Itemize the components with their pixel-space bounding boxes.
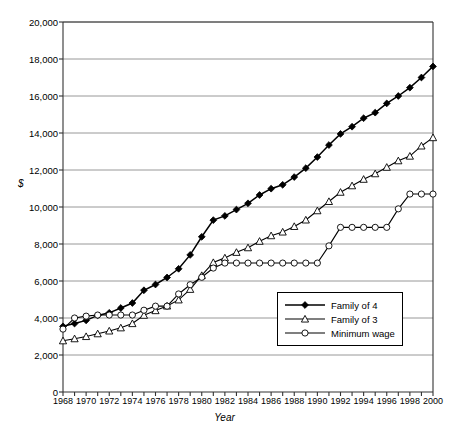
data-point (199, 274, 205, 280)
legend-key-icon (283, 326, 327, 340)
x-axis-tick-label: 1984 (238, 396, 258, 406)
data-point (221, 212, 228, 219)
data-point (245, 260, 251, 266)
x-axis-tick-label: 2000 (423, 396, 443, 406)
data-point (268, 260, 274, 266)
data-point (152, 281, 159, 288)
chart-legend: Family of 4Family of 3Minimum wage (277, 292, 403, 346)
x-axis-tick-label: 1988 (284, 396, 304, 406)
data-point (95, 312, 101, 318)
series-line (63, 66, 433, 326)
data-point (337, 224, 343, 230)
x-axis-tick-label: 1974 (122, 396, 142, 406)
plot-area (0, 0, 449, 435)
data-point (117, 324, 124, 331)
data-point (303, 260, 309, 266)
chart-container: $ 02,0004,0006,0008,00010,00012,00014,00… (0, 0, 449, 435)
legend-label: Family of 4 (327, 300, 377, 311)
x-axis-tick-label: 1968 (53, 396, 73, 406)
data-point (360, 176, 367, 183)
data-point (176, 291, 182, 297)
data-point (302, 302, 309, 309)
data-point (141, 307, 147, 313)
data-point (256, 260, 262, 266)
data-point (233, 260, 239, 266)
legend-item-family-of-4: Family of 4 (283, 298, 398, 312)
data-point (291, 223, 298, 230)
data-point (326, 243, 332, 249)
data-point (268, 185, 275, 192)
x-axis-tick-label: 1972 (99, 396, 119, 406)
data-point (279, 228, 286, 235)
data-point (233, 249, 240, 256)
data-point (280, 260, 286, 266)
data-point (384, 224, 390, 230)
data-point (314, 260, 320, 266)
data-point (349, 224, 355, 230)
x-axis-tick-label: 1976 (145, 396, 165, 406)
data-point (129, 320, 136, 327)
legend-item-minimum-wage: Minimum wage (283, 326, 398, 340)
data-point (60, 326, 66, 332)
data-point (407, 191, 413, 197)
x-axis-tick-label: 1978 (169, 396, 189, 406)
data-point (337, 189, 344, 196)
series-family-of-4 (60, 63, 437, 330)
data-point (210, 265, 216, 271)
x-axis-tick-label: 1992 (330, 396, 350, 406)
data-point (291, 260, 297, 266)
data-point (430, 191, 436, 197)
data-point (244, 244, 251, 251)
data-point (187, 282, 193, 288)
data-point (395, 157, 402, 164)
data-point (222, 260, 228, 266)
data-point (106, 312, 112, 318)
legend-key-icon (283, 312, 327, 326)
data-point (302, 330, 308, 336)
x-axis-tick-label: 1982 (215, 396, 235, 406)
data-point (164, 303, 170, 309)
data-point (372, 170, 379, 177)
data-point (418, 191, 424, 197)
x-axis-tick-label: 1994 (354, 396, 374, 406)
data-point (418, 142, 425, 149)
x-axis-tick-label: 1970 (76, 396, 96, 406)
data-point (348, 182, 355, 189)
x-axis-tick-label: 1980 (192, 396, 212, 406)
legend-key-icon (283, 298, 327, 312)
data-point (429, 134, 436, 141)
data-point (361, 224, 367, 230)
data-point (383, 164, 390, 171)
data-point (256, 238, 263, 245)
legend-item-family-of-3: Family of 3 (283, 312, 398, 326)
x-axis-tick-label: 1998 (400, 396, 420, 406)
data-point (152, 303, 158, 309)
data-point (83, 313, 89, 319)
data-point (395, 206, 401, 212)
data-point (118, 312, 124, 318)
legend-label: Family of 3 (327, 314, 377, 325)
data-point (71, 315, 77, 321)
legend-label: Minimum wage (327, 328, 395, 339)
x-axis-tick-label: 1996 (377, 396, 397, 406)
data-point (129, 312, 135, 318)
data-point (117, 305, 124, 312)
x-axis-tick-label: 1990 (307, 396, 327, 406)
x-axis-tick-label: 1986 (261, 396, 281, 406)
x-axis-title: Year (0, 412, 449, 423)
data-point (372, 224, 378, 230)
